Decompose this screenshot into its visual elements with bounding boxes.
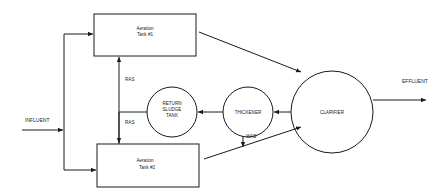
aeration-tank-1: Aeration Tank #1 bbox=[94, 14, 196, 56]
clarifier-label: CLARIFIER bbox=[320, 110, 345, 115]
return-sludge-tank: RETURN SLUDGE TANK bbox=[147, 87, 197, 137]
tank1-to-clarifier-arrow bbox=[199, 32, 301, 72]
return-sludge-tank-line1: RETURN bbox=[162, 101, 181, 106]
activated-sludge-process-diagram: INFLUENT Aeration Tank #1 Aeration Tank … bbox=[0, 0, 448, 196]
clarifier: CLARIFIER bbox=[291, 71, 373, 153]
was-label: WAS bbox=[246, 134, 256, 139]
aeration-tank-2-line2: Tank #2 bbox=[139, 165, 156, 170]
influent-flow bbox=[22, 34, 96, 170]
thickener-label: THICKENER bbox=[235, 110, 262, 115]
aeration-tank-1-line1: Aeration bbox=[136, 26, 154, 31]
aeration-tank-2-line1: Aeration bbox=[136, 158, 154, 163]
ras-lower-label: RAS bbox=[125, 120, 134, 125]
aeration-tank-1-line2: Tank #1 bbox=[137, 32, 154, 37]
influent-label: INFLUENT bbox=[25, 117, 49, 123]
effluent-label: EFFLUENT bbox=[402, 78, 428, 84]
ras-flow bbox=[119, 57, 147, 144]
ras-upper-label: RAS bbox=[125, 77, 134, 82]
return-sludge-tank-line3: TANK bbox=[166, 113, 179, 118]
thickener: THICKENER bbox=[223, 87, 273, 137]
return-sludge-tank-line2: SLUDGE bbox=[163, 107, 182, 112]
aeration-tank-2: Aeration Tank #2 bbox=[97, 144, 199, 187]
